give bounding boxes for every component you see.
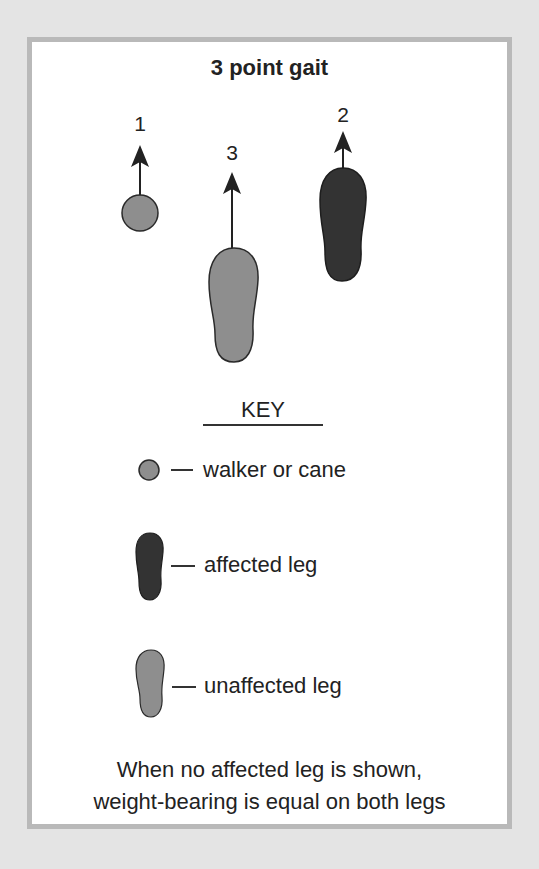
step-1-walker: [122, 145, 158, 231]
footnote-line-2: weight-bearing is equal on both legs: [0, 786, 539, 818]
legend-label-unaffected: unaffected leg: [204, 674, 342, 698]
legend-label-affected: affected leg: [204, 553, 317, 577]
key-heading: KEY: [203, 398, 323, 422]
legend-dash: [171, 469, 193, 471]
step-3-unaffected-leg: [209, 172, 258, 362]
key-underline: [203, 424, 323, 426]
gait-diagram: [0, 0, 539, 869]
legend-dash: [172, 686, 196, 688]
step-2-affected-leg: [320, 131, 366, 281]
footnote-line-1: When no affected leg is shown,: [0, 754, 539, 786]
legend-label-walker: walker or cane: [203, 458, 346, 482]
walker-circle-icon: [122, 195, 158, 231]
unaffected-foot-icon: [209, 248, 258, 362]
legend-affected-foot-icon: [136, 533, 163, 600]
legend-unaffected-foot-icon: [136, 650, 164, 717]
legend-circle-icon: [139, 460, 159, 480]
legend-dash: [171, 565, 195, 567]
affected-foot-icon: [320, 168, 366, 281]
